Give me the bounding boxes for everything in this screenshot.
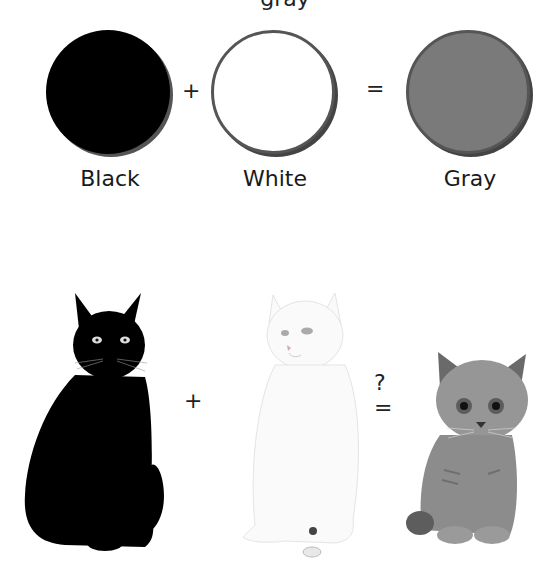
black-cat-image xyxy=(5,285,170,555)
gray-circle xyxy=(406,30,530,154)
equals-operator-cats: = xyxy=(374,397,392,419)
label-gray: Gray xyxy=(410,166,530,191)
black-circle xyxy=(46,30,170,154)
equals-operator: = xyxy=(366,78,384,100)
question-mark: ? xyxy=(374,372,386,394)
cut-off-title: gray xyxy=(240,0,330,11)
white-circle xyxy=(211,30,335,154)
plus-operator-cats: + xyxy=(184,390,202,412)
label-black: Black xyxy=(50,166,170,191)
gray-kitten-image xyxy=(400,340,535,545)
plus-operator: + xyxy=(182,80,200,102)
white-cat-image xyxy=(225,285,370,560)
label-white: White xyxy=(215,166,335,191)
mouse-toy xyxy=(303,547,321,557)
